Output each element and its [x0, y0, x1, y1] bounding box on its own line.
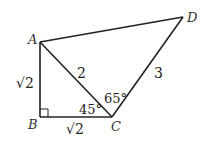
point-label-d: D — [186, 10, 198, 25]
angle-label-acb: 45° — [79, 102, 102, 117]
segment-label-ac: 2 — [77, 65, 86, 81]
point-label-c: C — [111, 119, 121, 134]
angle-label-acd: 65° — [104, 91, 127, 106]
segment-label-bc: √2 — [66, 121, 84, 137]
geometry-diagram: A B C D √2 √2 2 3 45° 65° — [0, 0, 207, 145]
segment-ad — [40, 17, 183, 42]
segment-label-cd: 3 — [154, 65, 163, 81]
right-angle-marker — [40, 109, 48, 117]
segment-label-ab: √2 — [16, 75, 34, 91]
point-label-a: A — [27, 32, 37, 47]
point-label-b: B — [27, 117, 38, 132]
